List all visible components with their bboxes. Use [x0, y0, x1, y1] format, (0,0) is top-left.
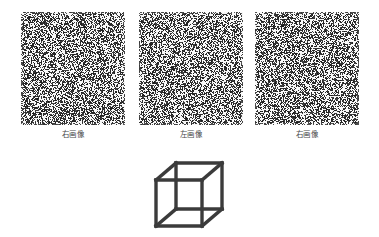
wireframe-cube — [152, 158, 230, 234]
panel-caption-2: 左画像 — [139, 130, 243, 140]
stereogram-panel-row: 右画像 左画像 右画像 — [0, 0, 379, 150]
stereogram-figure: 右画像 左画像 右画像 — [0, 0, 379, 237]
random-dot-image-2 — [139, 12, 243, 125]
stereogram-panel-2 — [139, 12, 243, 125]
random-dot-image-3 — [255, 12, 359, 125]
cube-edge-12 — [156, 209, 176, 226]
random-dot-canvas-2 — [139, 12, 243, 125]
panel-caption-3: 右画像 — [255, 130, 359, 140]
cube-edge-11 — [202, 209, 222, 226]
random-dot-canvas-3 — [255, 12, 359, 125]
wireframe-cube-svg — [152, 158, 230, 234]
panel-caption-1: 右画像 — [21, 130, 125, 140]
random-dot-image-1 — [21, 12, 125, 125]
cube-edge-9 — [156, 163, 176, 180]
cube-edge-10 — [202, 163, 222, 180]
stereogram-panel-1 — [21, 12, 125, 125]
random-dot-canvas-1 — [21, 12, 125, 125]
stereogram-panel-3 — [255, 12, 359, 125]
